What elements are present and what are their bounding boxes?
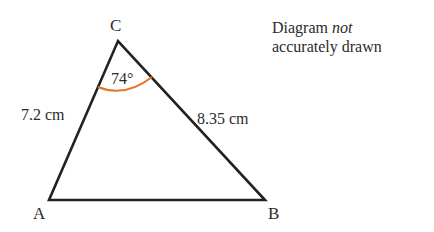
vertex-label-a: A	[33, 204, 46, 223]
note-line-1: Diagram not	[272, 18, 382, 37]
note-emphasis: not	[332, 19, 352, 36]
side-label-ac: 7.2 cm	[21, 106, 65, 123]
side-label-bc: 8.35 cm	[197, 110, 249, 127]
vertex-label-c: C	[110, 16, 121, 35]
diagram-note: Diagram not accurately drawn	[272, 18, 382, 56]
vertex-label-b: B	[268, 204, 279, 223]
note-prefix: Diagram	[272, 19, 332, 36]
note-line-2: accurately drawn	[272, 37, 382, 56]
angle-label-c: 74°	[111, 70, 133, 87]
